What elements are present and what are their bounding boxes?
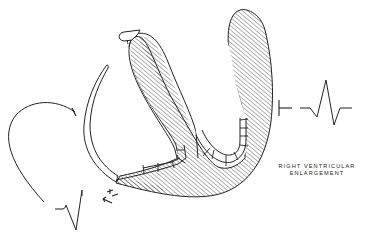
heart-diagram <box>0 0 367 241</box>
figure-caption: RIGHT VENTRICULAR ENLARGEMENT <box>262 163 367 176</box>
caption-line-2: ENLARGEMENT <box>262 170 367 177</box>
diagram-stage: RIGHT VENTRICULAR ENLARGEMENT <box>0 0 367 241</box>
ecg-right-electrode <box>279 100 292 116</box>
ecg-left-tracing <box>55 190 82 230</box>
rv-free-wall <box>84 65 118 182</box>
depolarization-vector <box>103 189 118 203</box>
ecg-left-lead-cable <box>9 103 75 202</box>
ecg-right-tracing <box>300 80 352 125</box>
ecg-left-electrode <box>72 108 76 116</box>
caption-line-1: RIGHT VENTRICULAR <box>262 163 367 170</box>
